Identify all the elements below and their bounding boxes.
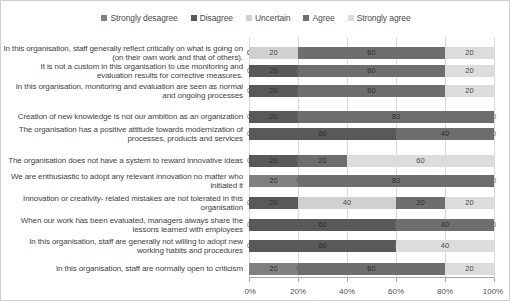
bar-segment[interactable]: 60 xyxy=(249,219,396,231)
x-axis-tick-label: 40% xyxy=(339,287,355,296)
bar-segment[interactable]: 20 xyxy=(396,197,445,209)
legend-item[interactable]: Uncertain xyxy=(246,13,290,23)
bar-segment[interactable]: 60 xyxy=(347,155,494,167)
legend-item-label: Disagree xyxy=(200,13,233,23)
bar-segment-value: 20 xyxy=(269,113,277,121)
bar-segment-value: 80 xyxy=(392,113,400,121)
bar-segment-value: 60 xyxy=(318,242,326,250)
bar-segment-value: 0 xyxy=(492,130,496,138)
bar-segment[interactable]: 20 xyxy=(445,65,494,77)
bar-segment[interactable]: 40 xyxy=(396,128,494,140)
bar-segment[interactable]: 60 xyxy=(249,128,396,140)
bar-segment-value: 60 xyxy=(367,87,375,95)
legend-swatch-icon xyxy=(101,15,107,21)
bar-segment-value: 20 xyxy=(465,67,473,75)
bar-segment[interactable]: 80 xyxy=(298,175,494,187)
bar-row[interactable]: 0600400 xyxy=(249,128,494,140)
bar-segment[interactable]: 60 xyxy=(298,47,445,59)
bar-row[interactable]: 02006020 xyxy=(249,85,494,97)
bar-segment-value: 0 xyxy=(492,113,496,121)
bar-segment[interactable]: 40 xyxy=(298,197,396,209)
bar-segment[interactable]: 60 xyxy=(249,240,396,252)
x-axis-tick xyxy=(494,278,495,282)
bar-row[interactable]: 0200800 xyxy=(249,111,494,123)
bar-row[interactable]: 02002060 xyxy=(249,155,494,167)
bar-segment[interactable]: 20 xyxy=(249,111,298,123)
gridline xyxy=(494,37,495,277)
legend-item[interactable]: Agree xyxy=(303,13,334,23)
x-axis-tick-label: 20% xyxy=(290,287,306,296)
legend-swatch-icon xyxy=(191,15,197,21)
bar-segment-value: 20 xyxy=(269,177,277,185)
bar-row[interactable]: 2000800 xyxy=(249,175,494,187)
x-axis-tick xyxy=(445,278,446,282)
category-label: The organisation does not have a system … xyxy=(3,156,243,166)
bar-segment-value: 40 xyxy=(343,199,351,207)
bar-segment[interactable]: 60 xyxy=(298,65,445,77)
x-axis-tick-label: 60% xyxy=(388,287,404,296)
bar-segment-value: 60 xyxy=(367,67,375,75)
category-label: The organisation has a positive attitude… xyxy=(3,125,243,144)
bar-segment-value: 40 xyxy=(441,221,449,229)
legend-item-label: Strongly agree xyxy=(357,13,411,23)
x-axis-tick-label: 100% xyxy=(483,287,503,296)
x-axis-tick xyxy=(347,278,348,282)
legend-swatch-icon xyxy=(246,15,252,21)
bar-row[interactable]: 020402020 xyxy=(249,197,494,209)
bar-row[interactable]: 0600040 xyxy=(249,240,494,252)
bar-segment-value: 60 xyxy=(318,221,326,229)
x-axis-line xyxy=(249,277,494,278)
bar-row[interactable]: 0600400 xyxy=(249,219,494,231)
bar-segment[interactable]: 20 xyxy=(445,85,494,97)
bar-segment[interactable]: 40 xyxy=(396,240,494,252)
bar-segment-value: 20 xyxy=(465,87,473,95)
legend-item-label: Agree xyxy=(312,13,334,23)
x-axis-tick-label: 0% xyxy=(244,287,256,296)
chart-container: Strongly desagreeDisagreeUncertainAgreeS… xyxy=(0,0,510,301)
bar-segment[interactable]: 40 xyxy=(396,219,494,231)
bar-segment-value: 20 xyxy=(416,199,424,207)
bar-segment[interactable]: 20 xyxy=(249,155,298,167)
bar-segment[interactable]: 20 xyxy=(249,175,298,187)
chart-legend: Strongly desagreeDisagreeUncertainAgreeS… xyxy=(1,13,510,23)
bar-row[interactable]: 02006020 xyxy=(249,65,494,77)
legend-item-label: Uncertain xyxy=(255,13,290,23)
legend-swatch-icon xyxy=(303,15,309,21)
bar-row[interactable]: 20006020 xyxy=(249,263,494,275)
bar-segment[interactable]: 20 xyxy=(249,85,298,97)
bar-segment[interactable]: 20 xyxy=(249,65,298,77)
legend-item[interactable]: Strongly desagree xyxy=(101,13,177,23)
x-axis-tick xyxy=(298,278,299,282)
category-label: When our work has been evaluated, manage… xyxy=(3,216,243,235)
bar-segment[interactable]: 80 xyxy=(298,111,494,123)
bar-segment-value: 20 xyxy=(269,157,277,165)
category-axis-labels: In this organisation, staff generally re… xyxy=(3,37,247,277)
bar-segment[interactable]: 20 xyxy=(249,197,298,209)
bar-segment-value: 20 xyxy=(269,265,277,273)
bar-segment[interactable]: 20 xyxy=(445,197,494,209)
category-label: Creation of new knowledge is not our amb… xyxy=(3,112,243,122)
category-label: Innovation or creativity- related mistak… xyxy=(3,194,243,213)
category-label: In this organisation, staff generally re… xyxy=(3,44,243,63)
bar-segment-value: 40 xyxy=(441,130,449,138)
legend-item[interactable]: Disagree xyxy=(191,13,233,23)
category-label: In this organisation, monitoring and eva… xyxy=(3,82,243,101)
bar-segment[interactable]: 20 xyxy=(298,155,347,167)
bar-segment[interactable]: 20 xyxy=(445,47,494,59)
bar-segment[interactable]: 20 xyxy=(249,263,298,275)
x-axis-tick xyxy=(396,278,397,282)
bar-segment-value: 20 xyxy=(269,67,277,75)
category-label: In this organisation, staff are generall… xyxy=(3,237,243,256)
bar-segment[interactable]: 20 xyxy=(445,263,494,275)
bar-segment-value: 0 xyxy=(492,221,496,229)
bar-row[interactable]: 00206020 xyxy=(249,47,494,59)
bar-segment-value: 20 xyxy=(269,49,277,57)
legend-item[interactable]: Strongly agree xyxy=(348,13,411,23)
bar-segment-value: 20 xyxy=(318,157,326,165)
bar-segment-value: 20 xyxy=(269,199,277,207)
bar-segment[interactable]: 20 xyxy=(249,47,298,59)
bar-segment[interactable]: 60 xyxy=(298,263,445,275)
bar-segment-value: 20 xyxy=(465,265,473,273)
bar-segment[interactable]: 60 xyxy=(298,85,445,97)
bar-segment-value: 20 xyxy=(465,199,473,207)
